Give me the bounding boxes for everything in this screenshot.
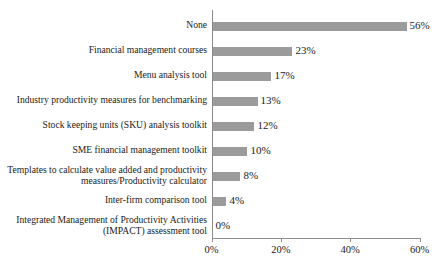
bar [213,97,258,106]
bar [213,197,227,206]
bar-value-label: 4% [230,194,245,206]
category-label: Stock keeping units (SKU) analysis toolk… [2,119,207,130]
bar [213,147,248,156]
category-label: Menu analysis tool [2,69,207,80]
bar-value-label: 8% [244,169,259,181]
category-label: Financial management courses [2,44,207,55]
tick-label: 40% [341,244,360,255]
bar-value-label: 13% [261,94,281,106]
tick-mark [420,238,421,242]
bar-value-label: 23% [296,44,316,56]
bar [213,122,255,131]
bar-value-label: 10% [251,144,271,156]
bar-value-label: 56% [410,19,430,31]
category-label: Inter-firm comparison tool [2,194,207,205]
bar-chart: None Financial management courses Menu a… [0,0,447,271]
bar [213,22,407,31]
bar [213,72,272,81]
tick-mark [212,238,213,242]
category-label: None [2,19,207,30]
category-label: SME financial management toolkit [2,144,207,155]
category-axis-line [212,238,420,239]
tick-label: 60% [410,244,429,255]
category-label: Industry productivity measures for bench… [2,94,207,105]
bar-value-label: 17% [275,69,295,81]
category-label: Integrated Management of Productivity Ac… [2,214,207,236]
tick-label: 20% [271,244,290,255]
category-label: Templates to calculate value added and p… [2,164,207,186]
bar [213,47,293,56]
bar [213,172,241,181]
bar-value-label: 0% [216,219,231,231]
tick-mark [350,238,351,242]
plot-area: 0% 20% 40% 60% 56% 23% 17% 13% 12% 10% [212,10,420,238]
bar-value-label: 12% [258,119,278,131]
tick-mark [281,238,282,242]
tick-label: 0% [205,244,219,255]
